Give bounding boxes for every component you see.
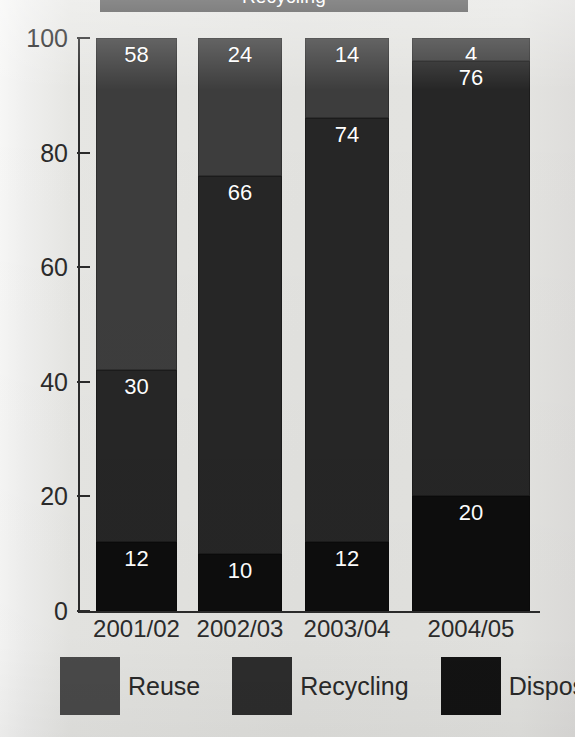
chart-title-banner: Recycling [100,0,468,12]
bar-segment-value: 24 [199,42,281,68]
bar-2004-05[interactable]: 20764 [412,38,530,611]
bar-segment-value: 10 [199,558,281,584]
y-axis-tick-label: 80 [40,138,68,167]
bar-segment-recycling[interactable]: 30 [96,370,177,542]
bar-segment-value: 20 [413,500,529,526]
bar-2002-03[interactable]: 106624 [198,38,282,611]
x-axis-tick-label: 2003/04 [304,615,391,643]
y-axis-tick-label: 0 [54,597,68,626]
chart-legend: ReuseRecyclingDisposal [0,655,575,717]
bar-segment-value: 58 [97,42,176,68]
y-axis-tick-label: 100 [26,24,68,53]
x-axis-tick-label: 2004/05 [428,615,515,643]
bar-segment-value: 76 [413,65,529,91]
y-axis-tick-label: 60 [40,253,68,282]
y-axis-tick [77,381,90,383]
legend-label: Reuse [128,672,200,701]
bar-segment-value: 12 [97,546,176,572]
bar-segment-value: 66 [199,180,281,206]
bar-2003-04[interactable]: 127414 [305,38,389,611]
bar-segment-value: 30 [97,374,176,400]
y-axis-tick [77,37,90,39]
legend-swatch-recycling [232,657,292,715]
y-axis-tick-label: 20 [40,482,68,511]
y-axis-tick [77,152,90,154]
legend-item-disposal[interactable]: Disposal [441,657,575,715]
bar-segment-recycling[interactable]: 76 [412,61,530,496]
legend-swatch-reuse [60,657,120,715]
legend-item-recycling[interactable]: Recycling [232,657,408,715]
bar-segment-disposal[interactable]: 12 [96,542,177,611]
bar-segment-reuse[interactable]: 58 [96,38,177,370]
y-axis-tick [77,266,90,268]
y-axis-tick [77,495,90,497]
x-axis-tick-label: 2002/03 [197,615,284,643]
bar-segment-disposal[interactable]: 12 [305,542,389,611]
bar-segment-value: 12 [306,546,388,572]
bar-segment-reuse[interactable]: 14 [305,38,389,118]
bar-segment-recycling[interactable]: 74 [305,118,389,542]
bar-segment-reuse[interactable]: 24 [198,38,282,176]
bar-segment-disposal[interactable]: 10 [198,554,282,611]
bar-segment-value: 4 [413,42,529,61]
plot-area: 100806040200 12305810662412741420764 [78,38,540,611]
x-axis-tick-label: 2001/02 [93,615,180,643]
chart-page: Recycling 100806040200 12305810662412741… [0,0,575,737]
chart-title-text: Recycling [242,0,326,7]
bar-segment-value: 74 [306,122,388,148]
legend-item-reuse[interactable]: Reuse [60,657,200,715]
x-axis-labels: 2001/022002/032003/042004/05 [78,615,540,649]
x-axis-line [78,611,540,613]
legend-label: Disposal [509,672,575,701]
bar-segment-disposal[interactable]: 20 [412,496,530,611]
legend-swatch-disposal [441,657,501,715]
bar-segment-value: 14 [306,42,388,68]
legend-label: Recycling [300,672,408,701]
bar-segment-recycling[interactable]: 66 [198,176,282,554]
y-axis-tick [77,610,90,612]
y-axis-tick-label: 40 [40,367,68,396]
bar-2001-02[interactable]: 123058 [96,38,177,611]
bar-segment-reuse[interactable]: 4 [412,38,530,61]
